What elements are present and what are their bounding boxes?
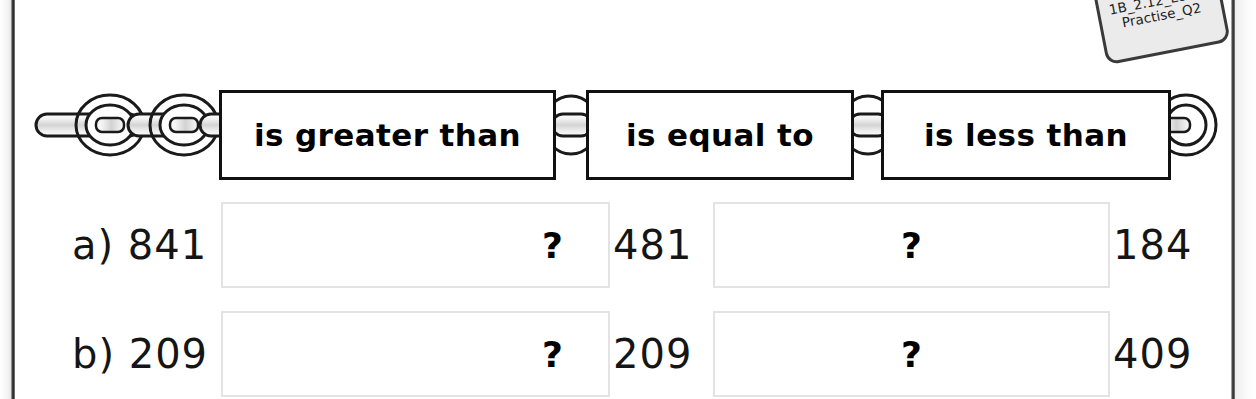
- phrase-label: is equal to: [626, 117, 814, 153]
- question-a-label: a) 841: [72, 199, 212, 291]
- question-b-answer-box-2[interactable]: ?: [713, 311, 1110, 397]
- question-mark: ?: [542, 334, 563, 375]
- resource-sticker-label: Resource 1B_2.12_Let's_Practise_Q2: [1101, 0, 1216, 34]
- question-row-a: a) 841 ? 481 ? 184: [0, 199, 1256, 291]
- question-b-last-number: 409: [1113, 308, 1233, 399]
- question-a-last-number: 184: [1113, 199, 1233, 291]
- question-b-answer-box-1[interactable]: ?: [221, 311, 610, 397]
- question-mark: ?: [901, 225, 922, 266]
- question-mark: ?: [901, 334, 922, 375]
- question-b-middle-number: 209: [613, 308, 723, 399]
- question-b-label: b) 209: [72, 308, 212, 399]
- question-a-answer-box-1[interactable]: ?: [221, 202, 610, 288]
- resource-sticker: Resource 1B_2.12_Let's_Practise_Q2: [1091, 0, 1231, 65]
- phrase-label: is greater than: [254, 117, 521, 153]
- question-a-answer-box-2[interactable]: ?: [713, 202, 1110, 288]
- question-mark: ?: [542, 225, 563, 266]
- phrase-label: is less than: [924, 117, 1128, 153]
- phrase-box-is-equal-to[interactable]: is equal to: [586, 90, 854, 180]
- phrase-box-is-less-than[interactable]: is less than: [881, 90, 1171, 180]
- phrase-box-is-greater-than[interactable]: is greater than: [219, 90, 556, 180]
- question-row-b: b) 209 ? 209 ? 409: [0, 308, 1256, 399]
- question-a-middle-number: 481: [613, 199, 723, 291]
- worksheet-page: Resource 1B_2.12_Let's_Practise_Q2 is gr…: [0, 0, 1256, 399]
